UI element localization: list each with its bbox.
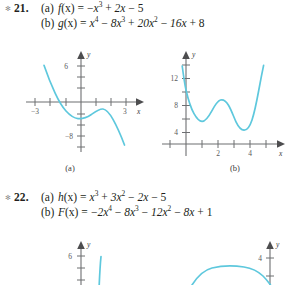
figure-21b-plot: 2 4 12 8 4 y x bbox=[160, 44, 292, 160]
figure-21a: −3 3 6 −8 y x bbox=[24, 44, 146, 160]
term-sign: − bbox=[101, 17, 108, 29]
x-axis-label: x bbox=[136, 107, 141, 116]
curve-g bbox=[182, 65, 263, 130]
x-tick-label: 4 bbox=[248, 149, 252, 158]
x-tick-label: −3 bbox=[31, 107, 39, 116]
term-sign: − bbox=[174, 206, 181, 218]
y-tick-label: 8 bbox=[174, 101, 178, 110]
y-axis-arrow-icon bbox=[266, 241, 274, 249]
problem-21-part-a: (a)f(x) = −x3 + 2x − 5 bbox=[41, 2, 143, 14]
term-sign: + bbox=[197, 206, 204, 218]
figure-22b-plot: 4 y bbox=[186, 235, 296, 285]
term-sign: + bbox=[128, 17, 135, 29]
term-exponent: 4 bbox=[108, 204, 112, 213]
term-sign: + bbox=[101, 191, 108, 203]
problem-21-marker: ✻ bbox=[5, 6, 11, 13]
y-axis-label: y bbox=[86, 240, 91, 249]
term-sign: − bbox=[161, 17, 168, 29]
y-tick-label: 6 bbox=[68, 252, 72, 261]
figure-21b: 2 4 12 8 4 y x bbox=[160, 44, 292, 160]
term-coef: 16x bbox=[170, 17, 187, 29]
function-name: F bbox=[58, 206, 65, 218]
function-arg: (x) bbox=[64, 17, 77, 29]
y-tick-label: 4 bbox=[174, 128, 178, 137]
term-coef: 8x bbox=[124, 206, 135, 218]
figure-21b-caption: (b) bbox=[215, 163, 255, 173]
part-label-b: (b) bbox=[41, 206, 58, 218]
term-coef: 1 bbox=[207, 206, 213, 218]
function-arg: (x) bbox=[65, 206, 78, 218]
part-label-a: (a) bbox=[41, 2, 58, 14]
x-axis-arrow-icon bbox=[136, 98, 144, 106]
textbook-page: ✻ 21. (a)f(x) = −x3 + 2x − 5 (b)g(x) = x… bbox=[0, 0, 299, 285]
term-coef: 2x bbox=[137, 191, 148, 203]
term-exponent: 2 bbox=[168, 204, 172, 213]
problem-22-part-a: (a)h(x) = x3 + 3x2 − 2x − 5 bbox=[41, 191, 166, 203]
y-tick-label: 6 bbox=[64, 62, 68, 71]
term-coef: 8x bbox=[111, 17, 122, 29]
term-coef: 5 bbox=[161, 191, 167, 203]
term-sign: − bbox=[142, 206, 149, 218]
term-exponent: 2 bbox=[122, 189, 126, 198]
function-arg: (x) bbox=[64, 191, 77, 203]
x-tick-label: 2 bbox=[216, 149, 220, 158]
term-sign: − bbox=[115, 206, 122, 218]
term-sign: + bbox=[105, 2, 112, 14]
term-sign: − bbox=[128, 2, 135, 14]
equals-sign: = bbox=[80, 17, 87, 29]
y-axis-label: y bbox=[191, 50, 196, 59]
x-axis-arrow-icon bbox=[277, 140, 285, 148]
term-exponent: 3 bbox=[135, 204, 139, 213]
problem-22-part-b: (b)F(x) = −2x4 − 8x3 − 12x2 − 8x + 1 bbox=[41, 206, 212, 218]
term-coef: 8 bbox=[199, 17, 205, 29]
part-label-b: (b) bbox=[41, 17, 58, 29]
equals-sign: = bbox=[80, 191, 87, 203]
y-axis-label: y bbox=[86, 50, 91, 59]
figure-22a: 6 y bbox=[24, 235, 146, 285]
term-exponent: 3 bbox=[122, 15, 126, 24]
equals-sign: = bbox=[78, 2, 85, 14]
y-axis-arrow-icon bbox=[77, 51, 85, 59]
term-exponent: 3 bbox=[95, 189, 99, 198]
term-sign: + bbox=[189, 17, 196, 29]
term-coef: 3x bbox=[111, 191, 122, 203]
term-coef: 12x bbox=[151, 206, 168, 218]
x-axis-label: x bbox=[278, 149, 283, 158]
term-coef: 2x bbox=[115, 2, 126, 14]
problem-21-number: 21. bbox=[14, 2, 29, 14]
term-coef: 20x bbox=[137, 17, 154, 29]
function-arg: (x) bbox=[61, 2, 74, 14]
y-axis-label: y bbox=[275, 240, 280, 249]
problem-21-part-b: (b)g(x) = x4 − 8x3 + 20x2 − 16x + 8 bbox=[41, 17, 205, 29]
y-tick-label: 12 bbox=[171, 74, 179, 83]
term-coef: 2x bbox=[97, 206, 108, 218]
term-sign: − bbox=[128, 191, 135, 203]
term-coef: 5 bbox=[138, 2, 144, 14]
equals-sign: = bbox=[81, 206, 88, 218]
term-exponent: 4 bbox=[95, 15, 99, 24]
problem-22-number: 22. bbox=[14, 191, 29, 203]
figure-21a-caption: (a) bbox=[50, 163, 90, 173]
part-label-a: (a) bbox=[41, 191, 58, 203]
y-axis-arrow-icon bbox=[77, 241, 85, 249]
figure-22b: 4 y bbox=[186, 235, 296, 285]
y-tick-label: −8 bbox=[65, 132, 73, 141]
curve-h bbox=[99, 257, 101, 285]
term-coef: 8x bbox=[184, 206, 195, 218]
x-tick-label: 3 bbox=[123, 107, 127, 116]
term-sign: − bbox=[151, 191, 158, 203]
term-exponent: 3 bbox=[99, 0, 103, 9]
y-tick-label: 4 bbox=[258, 254, 262, 263]
problem-22-marker: ✻ bbox=[5, 195, 11, 202]
figure-21a-plot: −3 3 6 −8 y x bbox=[24, 44, 146, 160]
y-axis-arrow-icon bbox=[182, 51, 190, 59]
term-exponent: 2 bbox=[154, 15, 158, 24]
curve-F bbox=[192, 266, 271, 285]
figure-22a-plot: 6 y bbox=[24, 235, 146, 285]
